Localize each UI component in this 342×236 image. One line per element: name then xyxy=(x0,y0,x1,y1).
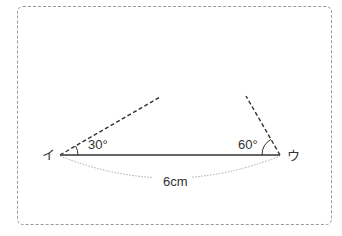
vertex-label-i: イ xyxy=(42,148,55,161)
angle-arc-left xyxy=(76,146,78,155)
angle-arc-right xyxy=(262,139,271,155)
angle-label-60: 60° xyxy=(238,138,258,151)
vertex-label-u: ウ xyxy=(287,149,300,162)
ray-30-degree xyxy=(60,97,160,155)
angle-label-30: 30° xyxy=(88,138,108,151)
length-label: 6cm xyxy=(163,175,188,188)
triangle-construction xyxy=(0,0,342,236)
